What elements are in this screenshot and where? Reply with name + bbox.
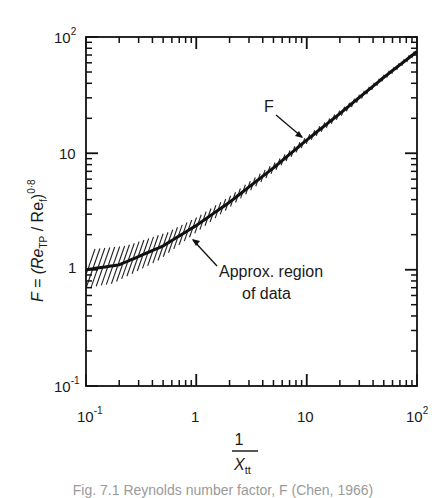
y-tick-100: 102	[54, 26, 77, 46]
x-tick-1: 1	[191, 408, 199, 425]
y-tick-1: 1	[68, 259, 76, 276]
x-tick-100: 102	[406, 405, 429, 425]
annotation-region-line1: Approx. region	[219, 263, 323, 280]
y-axis-title: F = (ReTP / Ref)0·8	[26, 179, 49, 302]
x-tick-0-1: 10-1	[77, 405, 103, 425]
figure-caption: Fig. 7.1 Reynolds number factor, F (Chen…	[0, 482, 446, 498]
svg-text:Xtt: Xtt	[233, 456, 251, 476]
data-region-band	[81, 51, 414, 288]
x-tick-10: 10	[297, 408, 314, 425]
y-tick-0-1: 10-1	[54, 375, 80, 395]
x-axis-title: 1 Xtt	[232, 431, 258, 476]
y-tick-10: 10	[59, 145, 76, 162]
arrowhead-region	[192, 239, 200, 246]
annotation-region-line2: of data	[242, 285, 291, 302]
f-curve	[86, 52, 417, 270]
annotation-f: F	[264, 98, 274, 115]
svg-text:1: 1	[235, 431, 244, 448]
